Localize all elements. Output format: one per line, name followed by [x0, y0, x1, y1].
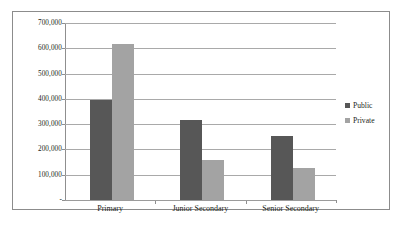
bar-senior-secondary-private[interactable]	[293, 168, 315, 200]
x-tick-mark	[155, 201, 156, 204]
bar-junior-secondary-private[interactable]	[202, 160, 224, 200]
bar-group-primary	[65, 23, 155, 200]
x-axis-labels: Primary Junior Secondary Senior Secondar…	[65, 202, 336, 218]
y-tick-label: 200,000	[38, 145, 62, 153]
bar-junior-secondary-public[interactable]	[180, 120, 202, 200]
y-tick-label: 500,000	[38, 70, 62, 78]
chart-frame: 700,000 600,000 500,000 400,000 300,000 …	[12, 11, 390, 210]
legend-swatch-public-icon	[345, 103, 350, 108]
y-tick-label: 400,000	[38, 95, 62, 103]
chart-legend: Public Private	[345, 98, 391, 128]
bar-primary-public[interactable]	[90, 100, 112, 200]
x-tick-label-primary: Primary	[97, 204, 123, 213]
legend-item-public[interactable]: Public	[345, 98, 391, 113]
x-tick-label-senior-secondary: Senior Secondary	[262, 204, 319, 213]
bar-senior-secondary-public[interactable]	[271, 136, 293, 200]
y-tick-label: 600,000	[38, 44, 62, 52]
bar-group-senior-secondary	[246, 23, 336, 200]
legend-label-private: Private	[353, 116, 375, 125]
y-tick-label: 100,000	[38, 171, 62, 179]
gridline-baseline	[65, 200, 336, 201]
x-axis-end-tick	[336, 200, 337, 203]
y-tick-label: 300,000	[38, 120, 62, 128]
y-tick-label: 700,000	[38, 19, 62, 27]
legend-swatch-private-icon	[345, 118, 350, 123]
legend-label-public: Public	[353, 101, 372, 110]
y-axis-labels: 700,000 600,000 500,000 400,000 300,000 …	[13, 12, 62, 211]
legend-item-private[interactable]: Private	[345, 113, 391, 128]
plot-area	[65, 23, 336, 200]
bar-primary-private[interactable]	[112, 44, 134, 200]
x-tick-mark	[246, 201, 247, 204]
x-tick-label-junior-secondary: Junior Secondary	[173, 204, 229, 213]
bar-group-junior-secondary	[155, 23, 245, 200]
